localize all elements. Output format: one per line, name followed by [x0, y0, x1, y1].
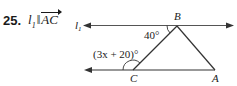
side-ba [177, 26, 215, 70]
arrow-left-icon [83, 23, 91, 29]
triangle-diagram: l1 B C A 40° (3x + 20)° [0, 0, 237, 86]
angle-b-label: 40° [144, 29, 159, 41]
arrow-left-icon [84, 67, 92, 73]
vertex-c-label: C [130, 72, 138, 84]
line-l1-label: l1 [75, 19, 82, 33]
vertex-b-label: B [174, 10, 181, 22]
angle-arc-b [167, 26, 170, 34]
angle-c-label: (3x + 20)° [93, 48, 138, 61]
arrow-right-icon [226, 23, 234, 29]
vertex-a-label: A [211, 72, 219, 84]
